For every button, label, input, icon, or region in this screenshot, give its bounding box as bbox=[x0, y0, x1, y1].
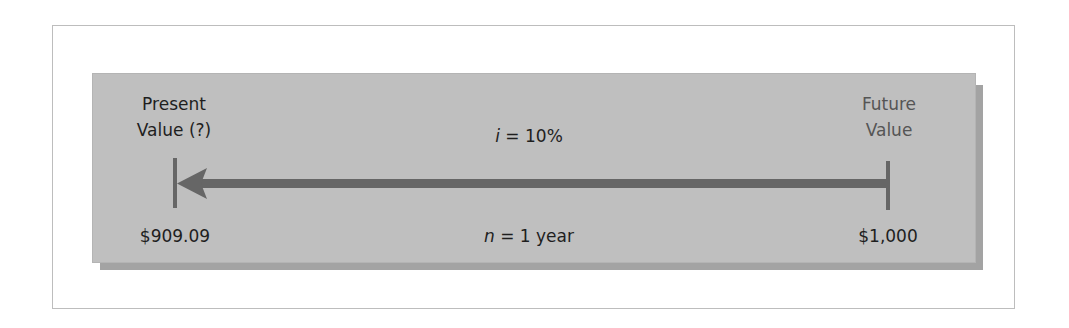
interest-rate-label: i = 10% bbox=[495, 124, 563, 148]
future-value-heading-line1: Future bbox=[862, 92, 916, 116]
period-symbol: n bbox=[484, 226, 495, 246]
period-label: n = 1 year bbox=[484, 224, 574, 248]
arrow-shaft bbox=[200, 179, 888, 188]
period-value: = 1 year bbox=[495, 226, 574, 246]
present-value-heading-line2: Value (?) bbox=[137, 118, 211, 142]
present-value-amount: $909.09 bbox=[140, 224, 210, 248]
timeline-diagram bbox=[0, 0, 1069, 328]
present-value-heading-line1: Present bbox=[142, 92, 206, 116]
interest-rate-value: = 10% bbox=[500, 126, 563, 146]
future-value-amount: $1,000 bbox=[858, 224, 917, 248]
future-value-heading-line2: Value bbox=[866, 118, 913, 142]
